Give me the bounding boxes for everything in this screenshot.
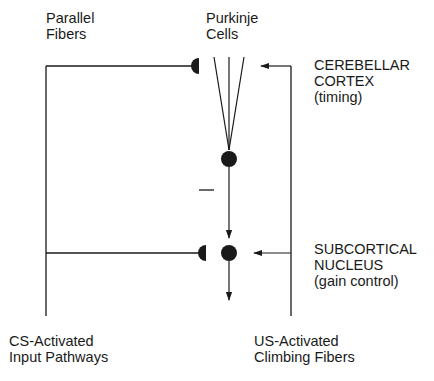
parallel-fibers-label: Parallel Fibers: [46, 10, 94, 42]
cerebellar-cortex-label: CEREBELLAR CORTEX (timing): [314, 57, 410, 105]
nucleus-cell-icon: [221, 245, 237, 261]
subcortical-nucleus-label: SUBCORTICAL NUCLEUS (gain control): [314, 241, 417, 289]
purkinje-cell-icon: [221, 151, 237, 167]
cs-input-pathway: [46, 66, 201, 316]
us-climbing-label: US-Activated Climbing Fibers: [254, 333, 355, 365]
purkinje-cells-label: Purkinje Cells: [206, 10, 258, 42]
nucleus-input-synapse-icon: [198, 245, 206, 261]
purkinje-dendrites: [214, 57, 244, 150]
cs-input-label: CS-Activated Input Pathways: [9, 333, 108, 365]
parallel-fiber-synapse-icon: [191, 58, 199, 74]
us-climbing-fiber-pathway: [254, 66, 291, 316]
